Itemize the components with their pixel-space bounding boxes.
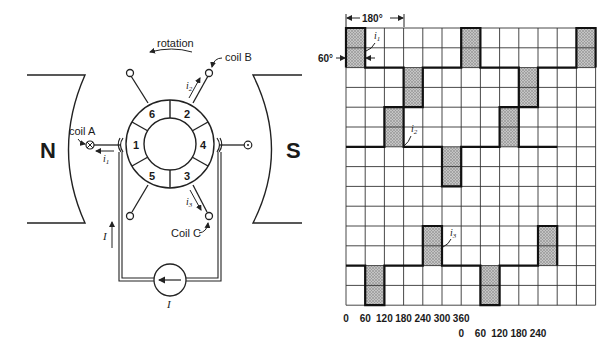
x-tick-label: 240 xyxy=(414,313,431,324)
supply-current-label: I xyxy=(102,230,108,242)
chart-i3-label: i3 xyxy=(450,227,457,240)
diagram-canvas: N S rotation 6 2 1 4 5 3 xyxy=(0,0,604,352)
x-axis-ticks-row2: 060120180240 xyxy=(458,328,546,339)
rotation-label: rotation xyxy=(157,37,194,49)
segment-6-label: 6 xyxy=(149,108,155,120)
north-pole xyxy=(27,75,85,223)
x-tick-label: 0 xyxy=(343,313,349,324)
width-label: 60° xyxy=(318,53,333,64)
north-pole-label: N xyxy=(40,138,56,163)
south-pole-label: S xyxy=(286,138,301,163)
coil-a-pointer-icon xyxy=(78,139,85,144)
x-tick-label: 120 xyxy=(491,328,508,339)
segment-5-label: 5 xyxy=(149,170,155,182)
x-tick-label: 0 xyxy=(458,328,464,339)
segment-2-label: 2 xyxy=(184,108,190,120)
span-annotation: 180° xyxy=(346,13,404,27)
x-tick-label: 240 xyxy=(530,328,547,339)
i1-label: i1 xyxy=(103,153,109,166)
i1-pointer-icon xyxy=(366,43,375,51)
coil-b-pointer-icon xyxy=(212,58,222,67)
x-tick-label: 60 xyxy=(475,328,487,339)
chart-i1-label: i1 xyxy=(374,30,380,43)
span-label: 180° xyxy=(362,13,383,24)
chart-i2-label: i2 xyxy=(411,123,418,136)
waveform-chart xyxy=(346,28,596,305)
x-tick-label: 300 xyxy=(434,313,451,324)
x-axis-ticks-row1: 060120180240300360 xyxy=(343,313,470,324)
rotation-arrow-icon xyxy=(150,49,192,52)
coil-dot-center xyxy=(247,144,249,146)
x-tick-label: 180 xyxy=(395,313,412,324)
source-current-label: I xyxy=(166,298,172,310)
i2-label: i2 xyxy=(186,80,193,93)
i3-label: i3 xyxy=(186,196,193,209)
segment-1-label: 1 xyxy=(133,139,139,151)
motor-diagram: N S rotation 6 2 1 4 5 3 xyxy=(27,37,302,310)
x-tick-label: 120 xyxy=(376,313,393,324)
coil-b-label: coil B xyxy=(225,51,252,63)
coil-c-label: Coil C xyxy=(171,227,201,239)
x-tick-label: 180 xyxy=(510,328,527,339)
coil-a-label: coil A xyxy=(69,125,96,137)
segment-4-label: 4 xyxy=(200,139,207,151)
x-tick-label: 60 xyxy=(360,313,372,324)
x-tick-label: 360 xyxy=(453,313,470,324)
segment-3-label: 3 xyxy=(184,170,190,182)
i2-pointer-icon xyxy=(404,136,411,146)
